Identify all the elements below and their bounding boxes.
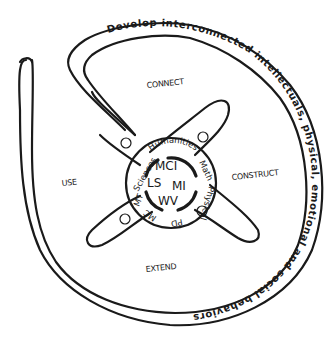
core-label-wv: WV	[158, 194, 179, 208]
ring-label-math: Math	[197, 159, 215, 182]
region-label-use: USE	[61, 177, 77, 188]
core-label-mi: MI	[172, 179, 186, 193]
region-label-construct: CONSTRUCT	[231, 168, 279, 182]
region-label-connect: CONNECT	[146, 77, 184, 90]
region-label-extend: EXTEND	[145, 262, 177, 274]
ring-label-mc: MC	[141, 208, 158, 224]
diagram-canvas: Develop interconnected intellectuals, ph…	[0, 0, 336, 344]
ring-label-physical: Physical	[198, 185, 217, 221]
core-label-mci: MCI	[155, 159, 177, 173]
joint-circle-top-left	[121, 138, 131, 148]
ring-label-mt: MT	[131, 192, 145, 208]
ring-label-humanities: Humanities	[146, 135, 201, 153]
core-label-ls: LS	[147, 176, 161, 190]
joint-circle-bottom-left	[120, 214, 130, 224]
joint-circle-top-right	[198, 132, 208, 142]
ring-label-pd: PD	[170, 217, 184, 229]
